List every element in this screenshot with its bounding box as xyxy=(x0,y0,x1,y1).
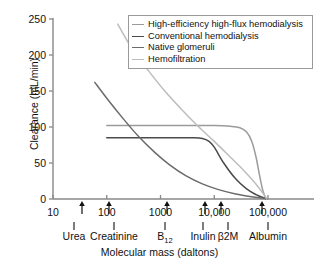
x-axis-title: Molecular mass (daltons) xyxy=(0,246,319,258)
marker-label-inulin: Inulin xyxy=(190,230,215,242)
legend-swatch-conventional xyxy=(132,36,144,37)
legend-label: Conventional hemodialysis xyxy=(148,31,259,43)
legend-label: High-efficiency high-flux hemodialysis xyxy=(148,19,303,31)
marker-label-b12: B12 xyxy=(157,230,172,245)
marker-arrow-head-0 xyxy=(79,201,85,206)
marker-label-creatinine: Creatinine xyxy=(90,230,138,242)
y-tick-label-100: 100 xyxy=(12,121,46,133)
series-line-0 xyxy=(107,126,267,199)
legend-item[interactable]: Hemofiltration xyxy=(132,54,308,66)
y-tick-label-250: 250 xyxy=(12,13,46,25)
marker-label-b2m: β2M xyxy=(218,230,239,242)
marker-label-urea: Urea xyxy=(63,230,86,242)
x-tick-label-100: 100 xyxy=(98,206,116,218)
series-line-1 xyxy=(107,138,267,199)
legend-label: Hemofiltration xyxy=(148,54,205,66)
legend-item[interactable]: Conventional hemodialysis xyxy=(132,31,308,43)
legend-swatch-high-efficiency xyxy=(132,24,144,25)
y-tick-label-50: 50 xyxy=(12,157,46,169)
marker-label-albumin: Albumin xyxy=(249,230,287,242)
x-tick-label-100000: 100,000 xyxy=(249,206,287,218)
y-tick-label-200: 200 xyxy=(12,49,46,61)
chart-legend: High-efficiency high-flux hemodialysis C… xyxy=(128,15,313,69)
series-line-2 xyxy=(95,82,267,199)
legend-item[interactable]: High-efficiency high-flux hemodialysis xyxy=(132,19,308,31)
x-tick-label-10: 10 xyxy=(47,206,59,218)
legend-label: Native glomeruli xyxy=(148,42,215,54)
legend-swatch-native-glomeruli xyxy=(132,47,144,48)
legend-item[interactable]: Native glomeruli xyxy=(132,42,308,54)
legend-swatch-hemofiltration xyxy=(132,59,144,60)
chart-figure: Clearance (mL/min) Molecular mass (dalto… xyxy=(0,0,319,264)
x-tick-label-1000: 1000 xyxy=(149,206,172,218)
x-tick-label-10000: 10,000 xyxy=(198,206,230,218)
y-tick-label-0: 0 xyxy=(12,193,46,205)
y-tick-label-150: 150 xyxy=(12,85,46,97)
